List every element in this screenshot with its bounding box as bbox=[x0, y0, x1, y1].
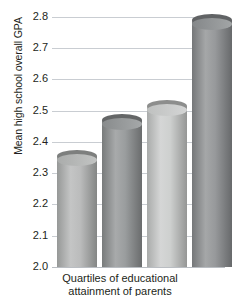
bar-cap-highlight bbox=[147, 104, 187, 116]
y-tick-label: 2.5 bbox=[22, 105, 48, 116]
bar-body bbox=[57, 156, 97, 267]
bar-cap bbox=[147, 100, 187, 112]
x-axis-title-line1: Quartiles of educational bbox=[62, 272, 178, 284]
gridline bbox=[52, 267, 225, 268]
y-tick-label: 2.2 bbox=[22, 198, 48, 209]
bar[interactable] bbox=[102, 114, 142, 267]
y-tick-label: 2.7 bbox=[22, 42, 48, 53]
y-tick-label: 2.0 bbox=[22, 261, 48, 272]
y-tick-label: 2.3 bbox=[22, 167, 48, 178]
gpa-bar-chart: Mean high school overall GPA 2.82.72.62.… bbox=[0, 0, 240, 297]
bar[interactable] bbox=[192, 14, 232, 267]
y-tick-label: 2.8 bbox=[22, 11, 48, 22]
bar-cap bbox=[102, 114, 142, 126]
x-axis-title-line2: attainment of parents bbox=[0, 285, 240, 296]
bar-cap bbox=[192, 14, 232, 26]
x-axis-title: Quartiles of educational attainment of p… bbox=[0, 272, 240, 296]
y-axis-tick-labels: 2.82.72.62.52.42.32.22.12.0 bbox=[14, 17, 48, 267]
y-tick-label: 2.1 bbox=[22, 230, 48, 241]
bar-body bbox=[192, 20, 232, 267]
y-tick-label: 2.4 bbox=[22, 136, 48, 147]
y-tick-label: 2.6 bbox=[22, 73, 48, 84]
bar[interactable] bbox=[147, 100, 187, 267]
bars-layer bbox=[52, 17, 225, 267]
bar-cap-highlight bbox=[57, 154, 97, 166]
bar-body bbox=[102, 120, 142, 267]
bar[interactable] bbox=[57, 150, 97, 267]
bar-body bbox=[147, 106, 187, 267]
bar-cap bbox=[57, 150, 97, 162]
